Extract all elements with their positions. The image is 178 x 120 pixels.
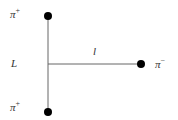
diagram-canvas — [0, 0, 178, 120]
label-horizontal-length: l — [93, 46, 96, 57]
particle-top-dot — [44, 12, 52, 20]
label-right-particle: π− — [155, 57, 165, 70]
label-top-particle: π+ — [10, 7, 20, 20]
particle-right-dot — [137, 60, 145, 68]
label-bottom-particle: π+ — [10, 100, 20, 113]
label-vertical-length: L — [11, 58, 17, 69]
particle-bottom-dot — [44, 108, 52, 116]
